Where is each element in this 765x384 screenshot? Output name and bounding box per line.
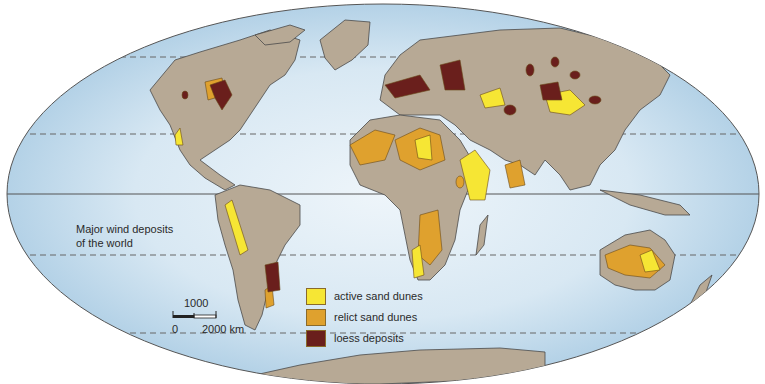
legend-item-loess-deposits: loess deposits	[306, 328, 423, 348]
scale-bar: 1000 0 2000 km	[168, 296, 248, 336]
map-title-line1: Major wind deposits	[76, 222, 173, 236]
loess-deposits-swatch	[306, 330, 326, 347]
scale-start-label: 0	[172, 322, 178, 336]
legend-label: relict sand dunes	[334, 311, 417, 323]
scale-mid-label: 1000	[184, 296, 208, 310]
map-title: Major wind deposits of the world	[76, 222, 173, 250]
legend: active sand dunes relict sand dunes loes…	[306, 286, 423, 349]
legend-label: active sand dunes	[334, 290, 423, 302]
legend-item-relict-sand-dunes: relict sand dunes	[306, 307, 423, 327]
scale-bar-graphic	[172, 310, 220, 320]
map-title-line2: of the world	[76, 236, 173, 250]
active-sand-dunes-swatch	[306, 288, 326, 305]
relict-sand-dunes-swatch	[306, 309, 326, 326]
legend-label: loess deposits	[334, 332, 404, 344]
legend-item-active-sand-dunes: active sand dunes	[306, 286, 423, 306]
scale-end-label: 2000 km	[202, 322, 244, 336]
